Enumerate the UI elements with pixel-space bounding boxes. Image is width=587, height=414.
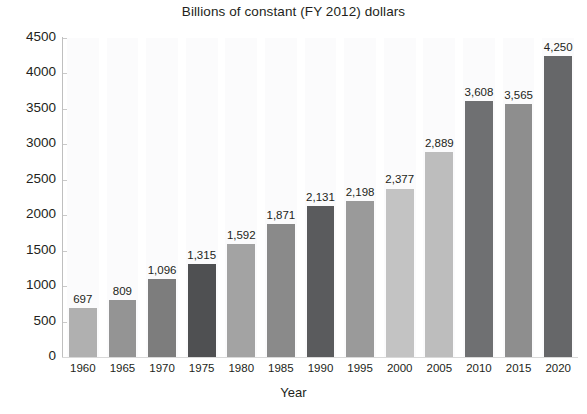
bar-value-label: 1,096 [132, 264, 192, 276]
x-axis-title: Year [0, 385, 587, 400]
chart-title: Billions of constant (FY 2012) dollars [0, 4, 587, 19]
y-axis-tick-label: 0 [0, 348, 56, 363]
y-axis-tick-label: 500 [0, 313, 56, 328]
bar-chart: Billions of constant (FY 2012) dollars 0… [0, 0, 587, 414]
bar-value-label: 2,889 [409, 137, 469, 149]
y-axis-tick-label: 4000 [0, 64, 56, 79]
y-axis-tick-label: 2000 [0, 206, 56, 221]
bar[interactable] [346, 201, 374, 357]
x-axis-baseline [62, 357, 578, 358]
bar-value-label: 2,198 [330, 186, 390, 198]
bar-value-label: 1,871 [251, 209, 311, 221]
y-axis-tick-label: 4500 [0, 29, 56, 44]
bar[interactable] [386, 189, 414, 358]
bar-value-label: 1,315 [172, 249, 232, 261]
bar[interactable] [505, 104, 533, 357]
bar-value-label: 4,250 [528, 41, 587, 53]
bar[interactable] [267, 224, 295, 357]
y-axis-tick-label: 1500 [0, 242, 56, 257]
bar[interactable] [69, 308, 97, 357]
bar-value-label: 809 [92, 285, 152, 297]
y-axis-tick-label: 3500 [0, 100, 56, 115]
y-axis-tick-label: 2500 [0, 171, 56, 186]
y-axis-tick-label: 1000 [0, 277, 56, 292]
bar-value-label: 2,377 [370, 173, 430, 185]
x-axis-tick-label: 2020 [528, 362, 587, 374]
bar[interactable] [188, 264, 216, 357]
bar-value-label: 3,565 [489, 89, 549, 101]
bar[interactable] [109, 300, 137, 357]
bar-value-label: 1,592 [211, 229, 271, 241]
bar[interactable] [307, 206, 335, 357]
bar[interactable] [227, 244, 255, 357]
y-axis-tick-label: 3000 [0, 135, 56, 150]
